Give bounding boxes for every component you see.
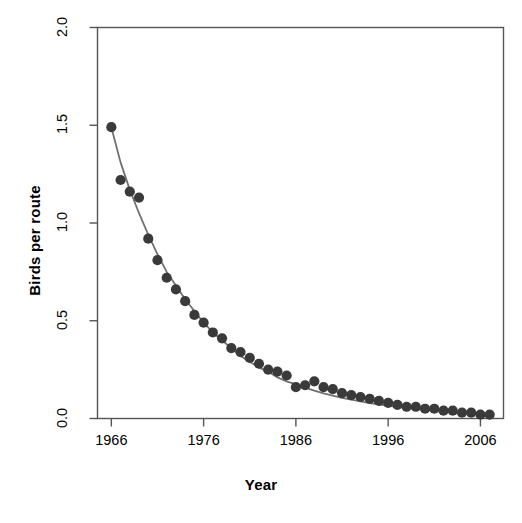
- x-axis-title: Year: [0, 476, 522, 493]
- y-tick-label: 1.5: [54, 102, 70, 146]
- x-tick-label: 2006: [445, 432, 515, 448]
- fitted-trend-line: [111, 127, 489, 414]
- data-point-markers: [106, 122, 495, 420]
- y-tick-label: 0.0: [54, 396, 70, 440]
- y-tick-label: 0.5: [54, 298, 70, 342]
- x-tick-label: 1996: [353, 432, 423, 448]
- x-tick-label: 1976: [169, 432, 239, 448]
- y-tick-label: 1.0: [54, 200, 70, 244]
- y-axis-title: Birds per route: [26, 161, 43, 321]
- x-tick-label: 1966: [76, 432, 146, 448]
- chart-figure: Birds per route Year 0.00.51.01.52.0 196…: [0, 0, 522, 523]
- tick-marks: [90, 28, 481, 427]
- y-tick-label: 2.0: [54, 5, 70, 49]
- x-tick-label: 1986: [261, 432, 331, 448]
- axes-frame: [98, 28, 504, 419]
